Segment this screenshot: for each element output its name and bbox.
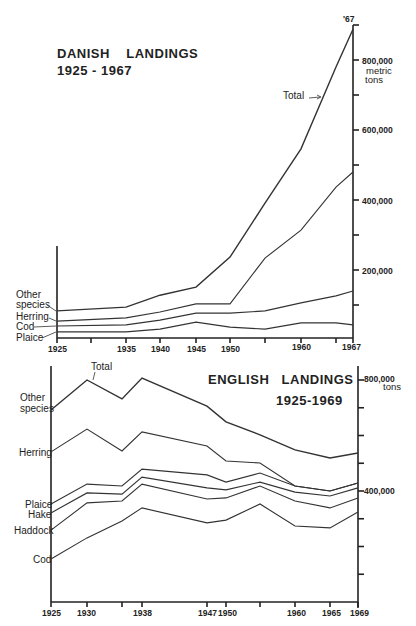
english-y-ticks — [358, 380, 364, 574]
english-y-label-400000: 400,000 — [364, 486, 395, 496]
english-title: ENGLISH LANDINGS — [208, 372, 354, 387]
danish-line-herring — [57, 172, 353, 321]
english-x-label-1947: 1947 — [198, 608, 217, 618]
danish-subtitle: 1925 - 1967 — [57, 63, 132, 78]
danish-x-label-1967: 1967 — [342, 342, 361, 352]
english-line-hake — [51, 477, 358, 513]
danish-chart: DANISH LANDINGS 1925 - 1967 '67 800,000 … — [16, 14, 393, 354]
danish-y-label-200000: 200,000 — [362, 266, 393, 276]
english-total-leader — [93, 372, 95, 380]
english-line-herring — [51, 429, 358, 491]
danish-leader-cod — [34, 326, 56, 327]
english-x-label-1969: 1969 — [350, 608, 369, 618]
english-x-label-1965: 1965 — [322, 608, 341, 618]
english-label-cod: Cod — [33, 554, 51, 565]
english-x-label-1960: 1960 — [287, 608, 306, 618]
english-x-label-1938: 1938 — [133, 608, 152, 618]
danish-end-marker: '67 — [343, 14, 355, 24]
danish-x-label-1925: 1925 — [48, 344, 67, 354]
danish-label-cod: Cod — [16, 321, 34, 332]
english-total-label: Total — [91, 361, 112, 372]
danish-x-label-1945: 1945 — [187, 344, 206, 354]
english-line-cod — [51, 504, 358, 559]
danish-x-label-1935: 1935 — [117, 344, 136, 354]
english-x-label-1925: 1925 — [42, 608, 61, 618]
danish-title: DANISH LANDINGS — [57, 46, 198, 61]
danish-leader-plaice — [42, 332, 56, 338]
danish-y-ticks — [353, 25, 359, 305]
english-label-other-1: Other — [20, 392, 46, 403]
english-label-hake: Hake — [28, 509, 52, 520]
danish-x-label-1960: 1960 — [292, 342, 311, 352]
danish-leader-herring — [49, 318, 56, 321]
english-line-haddock — [51, 484, 358, 530]
danish-total-arrow-icon — [309, 97, 320, 98]
danish-unit-tons: tons — [365, 74, 383, 85]
english-label-haddock: Haddock — [14, 525, 54, 536]
danish-label-other-2: species — [16, 299, 50, 310]
danish-total-label: Total — [283, 90, 304, 101]
danish-line-plaice — [57, 322, 353, 332]
english-x-label-1930: 1930 — [77, 608, 96, 618]
english-chart: ENGLISH LANDINGS 1925-1969 800,000 tons … — [14, 361, 401, 618]
english-label-other-2: species — [20, 403, 54, 414]
danish-x-label-1950: 1950 — [221, 344, 240, 354]
danish-label-plaice: Plaice — [16, 332, 44, 343]
danish-y-label-600000: 600,000 — [362, 125, 393, 135]
english-unit-tons: tons — [383, 381, 401, 392]
english-subtitle: 1925-1969 — [276, 393, 343, 408]
figure: DANISH LANDINGS 1925 - 1967 '67 800,000 … — [0, 0, 416, 626]
english-label-herring: Herring — [19, 447, 52, 458]
danish-x-label-1940: 1940 — [151, 344, 170, 354]
english-x-label-1950: 1950 — [218, 608, 237, 618]
danish-y-label-400000: 400,000 — [362, 196, 393, 206]
